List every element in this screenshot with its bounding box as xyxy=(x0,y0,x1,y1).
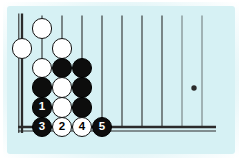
stone-black xyxy=(72,97,93,118)
stone-white xyxy=(52,38,73,59)
stone-white xyxy=(32,58,53,79)
stone-move-number: 3 xyxy=(39,121,45,133)
stone-black xyxy=(32,77,53,98)
stone-move-number: 5 xyxy=(99,121,105,133)
stone-move-number: 4 xyxy=(79,121,85,133)
stone-black-move-5: 5 xyxy=(92,117,113,138)
stone-move-number: 1 xyxy=(39,101,45,113)
stone-white-move-2: 2 xyxy=(52,117,73,138)
stone-white xyxy=(32,18,53,39)
stone-white-move-4: 4 xyxy=(72,117,93,138)
go-stones-layer: 13245 xyxy=(0,0,242,160)
stone-black xyxy=(52,58,73,79)
stone-black xyxy=(72,77,93,98)
stone-white xyxy=(52,97,73,118)
go-diagram-figure: 13245 xyxy=(0,0,242,160)
stone-black xyxy=(72,58,93,79)
stone-black-move-1: 1 xyxy=(32,97,53,118)
stone-white xyxy=(52,77,73,98)
stone-move-number: 2 xyxy=(59,121,65,133)
stone-white xyxy=(12,38,33,59)
stone-black-move-3: 3 xyxy=(32,117,53,138)
